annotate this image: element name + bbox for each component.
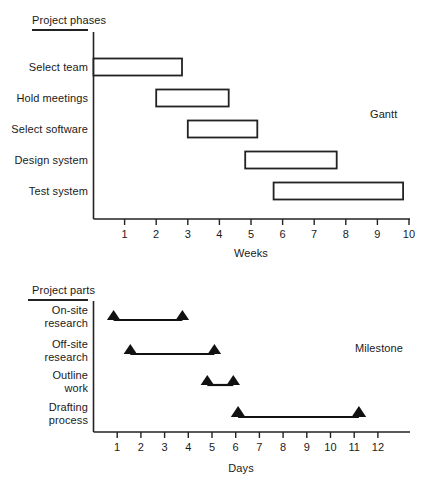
gantt-tick-label-3: 3 xyxy=(175,228,201,240)
milestone-tick-label-8: 8 xyxy=(270,441,296,453)
milestone-marker-start xyxy=(201,375,214,385)
gantt-tick-label-2: 2 xyxy=(143,228,169,240)
milestone-marker-start xyxy=(231,406,246,417)
gantt-bar-hold-meetings xyxy=(156,90,229,107)
gantt-x-ticks xyxy=(125,219,409,225)
milestone-row-label-line2: research xyxy=(0,351,88,364)
gantt-tick-label-9: 9 xyxy=(364,228,390,240)
milestone-row-label-line2: process xyxy=(0,414,88,427)
gantt-tick-label-4: 4 xyxy=(206,228,232,240)
milestone-x-ticks xyxy=(117,432,378,438)
milestone-tick-label-11: 11 xyxy=(341,441,367,453)
milestone-row-label-line1: Outline xyxy=(0,369,88,382)
milestone-row-label-line2: work xyxy=(0,382,88,395)
milestone-marker-end xyxy=(352,406,367,417)
milestone-corner-title: Project parts xyxy=(32,284,95,296)
gantt-bars xyxy=(94,59,404,200)
gantt-annotation: Gantt xyxy=(370,108,397,120)
gantt-tick-label-8: 8 xyxy=(333,228,359,240)
gantt-row-label-select-software: Select software xyxy=(0,123,88,136)
milestone-chart: Project parts On-site research Off-site … xyxy=(0,262,437,489)
milestone-row-outline-work xyxy=(201,375,240,385)
milestone-row-label-drafting-process: Drafting process xyxy=(0,401,88,426)
gantt-chart: Project phases Select team Hold meetings… xyxy=(0,0,437,262)
gantt-row-label-hold-meetings: Hold meetings xyxy=(0,92,88,105)
gantt-bar-select-team xyxy=(94,59,183,76)
milestone-row-off-site-research xyxy=(124,344,222,354)
milestone-tick-label-6: 6 xyxy=(223,441,249,453)
gantt-x-axis-title: Weeks xyxy=(201,247,301,259)
milestone-tick-label-4: 4 xyxy=(175,441,201,453)
milestone-annotation: Milestone xyxy=(355,342,403,354)
gantt-bar-test-system xyxy=(274,183,404,200)
milestone-tick-label-9: 9 xyxy=(294,441,320,453)
gantt-row-label-test-system: Test system xyxy=(0,185,88,198)
milestone-tick-label-12: 12 xyxy=(365,441,391,453)
milestone-row-drafting-process xyxy=(231,406,366,417)
milestone-marker-start xyxy=(124,344,137,354)
milestone-tick-label-1: 1 xyxy=(104,441,130,453)
gantt-tick-label-10: 10 xyxy=(396,228,422,240)
milestone-row-label-line1: On-site xyxy=(0,304,88,317)
milestone-row-label-line1: Drafting xyxy=(0,401,88,414)
milestone-row-label-line1: Off-site xyxy=(0,338,88,351)
milestone-tick-label-7: 7 xyxy=(246,441,272,453)
milestone-marker-end xyxy=(208,344,221,354)
milestone-corner-rule xyxy=(28,299,88,301)
milestone-marker-end xyxy=(227,375,240,385)
gantt-corner-title: Project phases xyxy=(32,14,106,26)
gantt-bar-design-system xyxy=(245,152,337,169)
gantt-row-label-design-system: Design system xyxy=(0,154,88,167)
gantt-corner-rule-extension xyxy=(32,29,88,31)
milestone-tick-label-10: 10 xyxy=(318,441,344,453)
milestone-tick-label-2: 2 xyxy=(128,441,154,453)
milestone-row-label-line2: research xyxy=(0,317,88,330)
gantt-bar-select-software xyxy=(188,121,257,138)
milestone-row-on-site-research xyxy=(107,310,189,320)
gantt-tick-label-6: 6 xyxy=(270,228,296,240)
gantt-tick-label-1: 1 xyxy=(112,228,138,240)
gantt-tick-label-7: 7 xyxy=(301,228,327,240)
milestone-row-label-on-site-research: On-site research xyxy=(0,304,88,329)
milestone-x-axis-title: Days xyxy=(191,462,291,474)
milestone-marker-start xyxy=(107,310,120,320)
milestone-row-label-off-site-research: Off-site research xyxy=(0,338,88,363)
milestone-tick-label-5: 5 xyxy=(199,441,225,453)
milestone-tick-label-3: 3 xyxy=(152,441,178,453)
gantt-tick-label-5: 5 xyxy=(238,228,264,240)
milestone-marker-end xyxy=(176,310,189,320)
gantt-row-label-select-team: Select team xyxy=(0,61,88,74)
milestone-row-label-outline-work: Outline work xyxy=(0,369,88,394)
